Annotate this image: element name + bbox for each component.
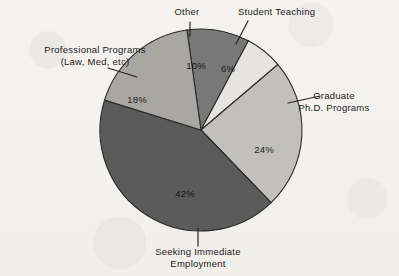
percent-label-seeking: 42% [175, 188, 195, 199]
percent-label-graduate: 24% [254, 144, 274, 155]
percent-label-professional: 18% [127, 94, 147, 105]
percent-label-other: 10% [186, 60, 206, 71]
pie-chart-figure: 10% 6% 24% 42% 18% Other Student Teachin… [0, 0, 399, 276]
callout-label-graduate-line1: Graduate [313, 90, 355, 101]
callout-label-student-teaching-line1: Student Teaching [238, 6, 315, 17]
callout-label-graduate-line2: Ph.D. Programs [298, 102, 369, 113]
callout-label-seeking-line1: Seeking Immediate [155, 246, 241, 257]
callout-label-professional-line1: Professional Programs [44, 44, 145, 55]
pie-chart-canvas: 10% 6% 24% 42% 18% Other Student Teachin… [0, 0, 399, 276]
callout-label-other-line1: Other [174, 6, 199, 17]
callout-label-professional-line2: (Law, Med, etc) [61, 56, 130, 67]
percent-label-student-teaching: 6% [221, 63, 235, 74]
callout-label-seeking-line2: Employment [170, 258, 225, 269]
